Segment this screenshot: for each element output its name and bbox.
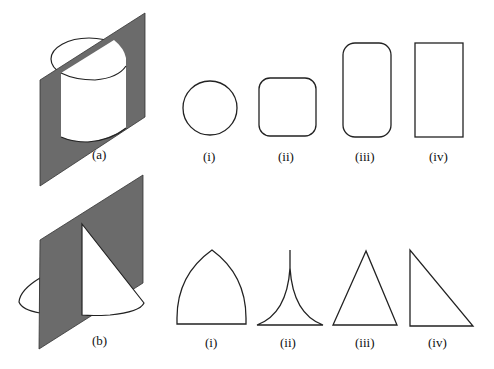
label-b-ii: (ii) <box>280 335 296 350</box>
cylinder-cut-surface <box>61 40 126 142</box>
cylinder-diagram: (a) <box>40 13 145 186</box>
label-a-iii: (iii) <box>355 149 375 164</box>
option-a-iii: (iii) <box>343 43 391 164</box>
option-a-ii: (ii) <box>259 78 316 164</box>
label-a-ii: (ii) <box>278 149 294 164</box>
option-a-iv: (iv) <box>415 43 463 164</box>
curved-arch-shape <box>177 250 246 324</box>
label-a-iv: (iv) <box>429 149 448 164</box>
right-triangle-shape <box>410 250 473 326</box>
circle-shape <box>183 81 237 135</box>
label-b: (b) <box>92 333 107 348</box>
cone-diagram: (b) <box>19 175 144 349</box>
label-b-i: (i) <box>205 335 217 350</box>
label-b-iv: (iv) <box>428 335 447 350</box>
rectangle-shape <box>415 43 463 137</box>
label-a-i: (i) <box>203 149 215 164</box>
rounded-square-shape <box>259 78 316 136</box>
option-b-iv: (iv) <box>410 250 473 350</box>
option-b-iii: (iii) <box>333 251 397 350</box>
option-b-i: (i) <box>177 250 246 350</box>
rounded-rectangle-shape <box>343 43 391 137</box>
cone-base-left <box>19 278 40 313</box>
label-a: (a) <box>92 147 106 162</box>
option-a-i: (i) <box>183 81 237 164</box>
concave-cusp-shape <box>257 250 323 325</box>
isosceles-triangle-shape <box>333 251 397 325</box>
cross-section-figure: (a) (i) (ii) (iii) (iv) (b) (i) (ii) (ii… <box>0 0 494 369</box>
option-b-ii: (ii) <box>257 250 323 350</box>
label-b-iii: (iii) <box>355 335 375 350</box>
